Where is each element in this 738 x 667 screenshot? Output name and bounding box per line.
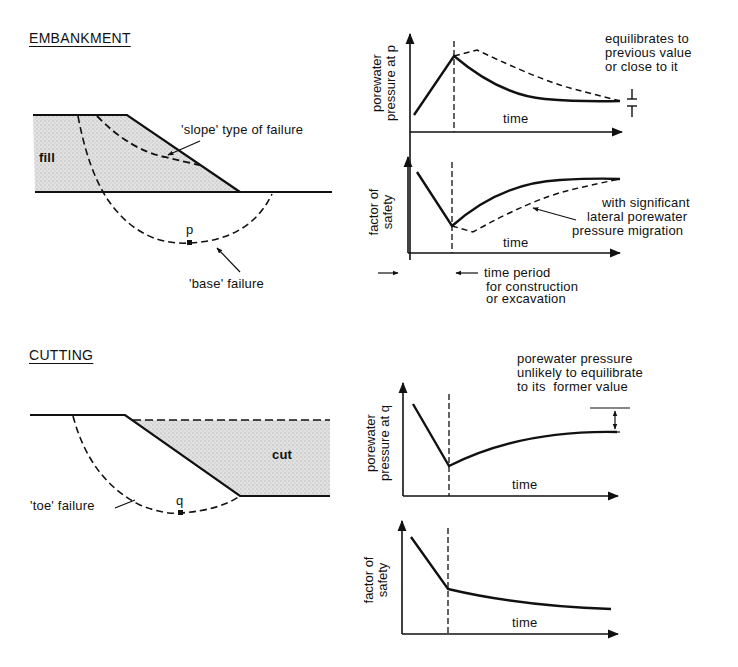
embankment-pressure-xlabel: time xyxy=(503,112,528,126)
embankment-safety-ylabel: factor of safety xyxy=(367,172,395,252)
point-p-marker xyxy=(187,240,192,245)
fill-label: fill xyxy=(39,151,55,165)
cut-label: cut xyxy=(272,448,292,462)
slope-failure-label: 'slope' type of failure xyxy=(181,123,303,137)
cut-body xyxy=(125,415,330,496)
equilibrates-annotation-2: previous value xyxy=(605,46,692,60)
cutting-safety-xlabel: time xyxy=(512,616,537,630)
unlikely-annotation-1: porewater pressure xyxy=(517,352,633,366)
lateral-migration-pointer xyxy=(533,208,576,220)
cutting-heading: CUTTING xyxy=(29,348,93,362)
lateral-annotation-3: pressure migration xyxy=(572,224,683,238)
point-q-label: q xyxy=(176,494,183,508)
equilibrates-annotation-1: equilibrates to xyxy=(605,32,689,46)
cutting-pressure-xlabel: time xyxy=(512,478,537,492)
point-q-marker xyxy=(178,510,183,515)
time-period-label-1: time period xyxy=(484,266,551,280)
point-p-label: p xyxy=(186,223,193,237)
equilibrates-annotation-3: or close to it xyxy=(605,60,678,74)
toe-failure-label: 'toe' failure xyxy=(30,499,95,513)
toe-failure-pointer xyxy=(115,500,135,508)
pressure-curve xyxy=(413,404,617,466)
time-period-label-3: or excavation xyxy=(486,292,566,306)
cutting-safety-ylabel: factor of safety xyxy=(362,540,390,620)
embankment-cross-section xyxy=(33,115,332,272)
lateral-annotation-1: with significant xyxy=(602,196,690,210)
safety-curve xyxy=(411,537,611,609)
embankment-safety-xlabel: time xyxy=(503,236,528,250)
lateral-annotation-2: lateral porewater xyxy=(587,210,687,224)
embankment-heading: EMBANKMENT xyxy=(29,31,131,45)
unlikely-annotation-2: unlikely to equilibrate xyxy=(517,366,643,380)
base-failure-pointer xyxy=(217,248,240,272)
base-failure-label: 'base' failure xyxy=(189,277,264,291)
graph-cutting-safety xyxy=(402,521,618,634)
cutting-pressure-ylabel: porewater pressure at q xyxy=(364,388,392,498)
pressure-curve-solid xyxy=(414,56,620,115)
embankment-pressure-ylabel: porewater pressure at p xyxy=(370,33,398,133)
unlikely-annotation-3: to its former value xyxy=(517,380,628,394)
